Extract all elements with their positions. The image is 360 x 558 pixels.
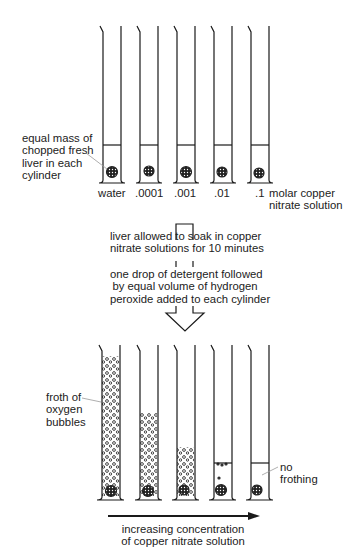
bottom-cylinder-01 <box>209 345 236 500</box>
conc-0001: .0001 <box>135 187 163 199</box>
conc-water: water <box>98 187 126 199</box>
unit-label: molar copper nitrate solution <box>269 187 342 212</box>
top-cylinder-01 <box>210 26 236 183</box>
conc-1: .1 <box>255 187 264 199</box>
conc-01: .01 <box>214 187 230 199</box>
bottom-cylinder-0001 <box>135 345 162 500</box>
bottom-cylinders <box>97 345 273 500</box>
step-1-text: liver allowed to soak in copper nitrate … <box>110 230 260 255</box>
arrow-label: increasing concentration of copper nitra… <box>108 523 258 548</box>
top-cylinder-1 <box>247 26 273 183</box>
top-cylinder-water <box>99 26 125 183</box>
label-liver: equal mass of chopped fresh liver in eac… <box>22 132 94 182</box>
label-no-froth: no frothing <box>280 461 318 486</box>
bottom-cylinder-001 <box>172 345 199 500</box>
label-froth: froth of oxygen bubbles <box>46 391 86 428</box>
top-cylinders <box>99 26 273 183</box>
arrowhead-icon <box>248 512 260 520</box>
leader-no-froth <box>262 467 278 475</box>
top-cylinder-001 <box>173 26 199 183</box>
conc-001: .001 <box>174 187 196 199</box>
down-arrow-icon <box>166 306 204 331</box>
step-2-text: one drop of detergent followed by equal … <box>110 268 260 305</box>
bottom-cylinder-water <box>97 345 124 500</box>
bottom-cylinder-1 <box>246 345 273 500</box>
top-cylinder-0001 <box>136 26 162 183</box>
